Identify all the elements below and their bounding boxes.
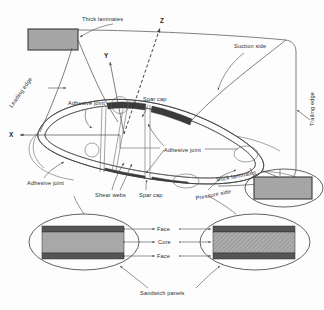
y-axis-label: Y <box>104 52 109 59</box>
spar-cap-bottom-label: Spar cap <box>139 192 163 198</box>
face-bottom-left <box>42 253 124 259</box>
callout-shear-webs: Shear webs <box>95 163 132 198</box>
adhesive-joint-ellipse-right <box>234 146 258 162</box>
z-axis-line <box>124 28 160 134</box>
callout-sandwich-panels: Sandwich panels <box>120 266 220 296</box>
face-top-right <box>213 226 295 232</box>
thick-laminates-top-label: Thick laminates <box>82 16 123 22</box>
sandwich-panel-detail-solid-core <box>29 196 139 270</box>
core-right <box>213 232 295 253</box>
face-bottom-right <box>213 253 295 259</box>
callout-leading-edge: Leading edge <box>8 76 66 109</box>
shear-webs-label: Shear webs <box>95 192 126 198</box>
callout-thick-laminates-top: Thick laminates <box>80 16 123 37</box>
spar-cap-top-label: Spar cap <box>143 96 167 102</box>
callout-thick-laminates-right: Thick laminates <box>215 169 257 183</box>
thick-laminate-detail-leading-edge <box>28 29 78 50</box>
callout-suction-side: Suction side <box>218 43 266 90</box>
y-axis-line <box>110 62 124 134</box>
core-label: Core <box>158 239 171 245</box>
face-top-label: Face <box>157 226 170 232</box>
figure-canvas: X Y Z Thick laminates Suction side Trail… <box>0 0 324 310</box>
adhesive-joint-upper-left-label: Adhesive joint <box>68 100 105 106</box>
face-top-left <box>42 226 124 232</box>
face-bottom-label: Face <box>157 253 170 259</box>
airfoil-outer-skin <box>38 99 264 184</box>
airfoil-inner-skin <box>38 99 264 184</box>
sandwich-panel-detail-hatched-core <box>200 196 310 270</box>
adhesive-joint-right-label: Adhesive joint <box>164 147 201 153</box>
trailing-edge-label: Trailing edge <box>309 92 315 126</box>
thick-laminates-right-label: Thick laminates <box>215 169 257 183</box>
callout-adhesive-joint-right: Adhesive joint <box>146 124 238 173</box>
callout-trailing-edge: Trailing edge <box>297 92 315 126</box>
sandwich-panels-label: Sandwich panels <box>140 290 185 296</box>
callout-adhesive-joint-upper-left: Adhesive joint <box>68 100 105 128</box>
spar-cap-upper <box>107 102 146 110</box>
callout-adhesive-joint-lower-left: Adhesive joint <box>27 162 64 186</box>
core-left <box>42 232 124 253</box>
leading-edge-label: Leading edge <box>8 76 33 109</box>
spar-cap-upper-2 <box>151 106 192 125</box>
z-axis-label: Z <box>160 17 164 24</box>
x-axis-label: X <box>9 131 14 138</box>
callout-pressure-side: Pressure side <box>195 179 232 201</box>
adhesive-joint-lower-left-label: Adhesive joint <box>27 180 64 186</box>
callout-spar-cap-bottom: Spar cap <box>139 180 163 198</box>
suction-side-label: Suction side <box>234 43 266 49</box>
spar-cap-lower-2 <box>151 177 188 188</box>
adhesive-joint-circle-mid <box>85 143 99 157</box>
